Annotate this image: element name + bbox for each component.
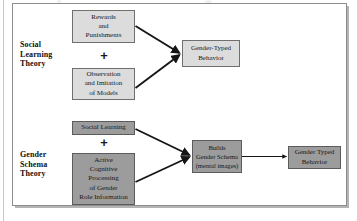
node-social-learning: Social Learning bbox=[72, 121, 135, 135]
node-outcome-slt-line-2: Behavior bbox=[191, 54, 231, 63]
node-outcome-gst-line-1: Gender Typed bbox=[295, 148, 335, 157]
node-active-line-4: of Gender bbox=[79, 184, 127, 193]
page-gutter-rule bbox=[3, 0, 4, 221]
node-outcome-gst-line-2: Behavior bbox=[295, 158, 335, 167]
node-rewards-and-punishments: Rewards and Punishments bbox=[72, 10, 135, 43]
node-observation-line-2: and Imitation bbox=[85, 79, 123, 88]
node-active-line-3: Processing bbox=[79, 174, 127, 183]
node-rewards-line-3: Punishments bbox=[86, 31, 122, 40]
operator-plus-row1: + bbox=[92, 49, 116, 62]
node-gender-typed-behavior-gst: Gender Typed Behavior bbox=[288, 146, 341, 169]
row2-label-line-2: Schema bbox=[20, 160, 68, 170]
row-label-social-learning-theory: Social Learning Theory bbox=[20, 40, 68, 69]
node-observation-and-imitation: Observation and Imitation of Models bbox=[72, 68, 135, 100]
row-label-line-1: Social bbox=[20, 40, 68, 50]
node-social-learning-line-1: Social Learning bbox=[81, 123, 126, 132]
row-label-line-3: Theory bbox=[20, 59, 68, 69]
node-active-cognitive-processing: Active Cognitive Processing of Gender Ro… bbox=[72, 153, 135, 205]
node-gender-typed-behavior-slt: Gender-Typed Behavior bbox=[182, 40, 240, 67]
row2-label-line-1: Gender bbox=[20, 150, 68, 160]
frame-shadow-right bbox=[347, 6, 349, 208]
node-builds-line-2: Gender Schema bbox=[196, 152, 239, 161]
node-observation-line-3: of Models bbox=[85, 89, 123, 98]
node-builds-line-1: Builds bbox=[196, 143, 239, 152]
node-observation-line-1: Observation bbox=[85, 70, 123, 79]
row-label-gender-schema-theory: Gender Schema Theory bbox=[20, 150, 68, 179]
node-active-line-5: Role Information bbox=[79, 193, 127, 202]
frame-shadow-bottom bbox=[15, 206, 349, 208]
node-rewards-line-1: Rewards bbox=[86, 13, 122, 22]
node-builds-line-3: (mental images) bbox=[196, 161, 239, 170]
node-active-line-2: Cognitive bbox=[79, 165, 127, 174]
row-label-line-2: Learning bbox=[20, 50, 68, 60]
node-active-line-1: Active bbox=[79, 156, 127, 165]
operator-plus-row2: + bbox=[92, 136, 116, 149]
figure-screenshot: Social Learning Theory Rewards and Punis… bbox=[0, 0, 357, 221]
node-rewards-line-2: and bbox=[86, 22, 122, 31]
node-builds-gender-schema: Builds Gender Schema (mental images) bbox=[192, 140, 242, 173]
node-outcome-slt-line-1: Gender-Typed bbox=[191, 44, 231, 53]
row2-label-line-3: Theory bbox=[20, 169, 68, 179]
